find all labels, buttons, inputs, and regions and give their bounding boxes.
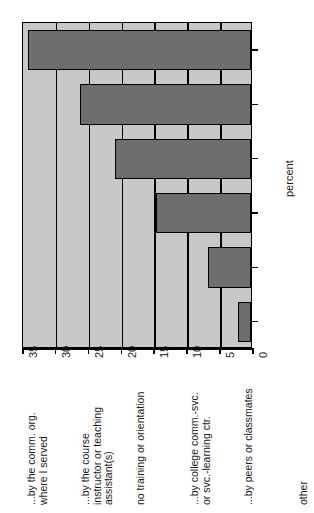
value-tick-0: [252, 348, 254, 354]
value-tick-label-25: 25: [93, 346, 105, 358]
bar-slot: [21, 139, 251, 179]
gridline-10: [187, 23, 189, 347]
value-tick-label-0: 0: [257, 352, 269, 358]
bar[interactable]: [115, 139, 251, 179]
bar-slot: [21, 84, 251, 124]
bar[interactable]: [80, 84, 251, 124]
value-tick-20: [121, 348, 123, 354]
category-tick: [252, 158, 258, 160]
value-tick-label-5: 5: [224, 352, 236, 358]
category-label: ...by the courseinstructor or teachingas…: [80, 407, 115, 505]
gridline-25: [89, 23, 91, 347]
bar[interactable]: [238, 302, 251, 342]
category-label-line: other: [298, 481, 310, 505]
category-label: ...by college comm.-svc.or svc.-learning…: [189, 392, 212, 505]
category-label-line: ...by the comm. org.: [26, 412, 38, 505]
category-tick: [252, 104, 258, 106]
value-tick-10: [186, 348, 188, 354]
value-tick-5: [219, 348, 221, 354]
category-label: ...by the comm. org.where I served: [26, 412, 49, 505]
value-tick-30: [55, 348, 57, 354]
category-tick: [252, 267, 258, 269]
plot-area: [22, 22, 252, 348]
category-tick: [252, 321, 258, 323]
category-label-line: or svc.-learning ctr.: [201, 392, 213, 505]
bar-chart-figure: 05101520253035 percent ...by the comm. o…: [0, 0, 314, 513]
gridline-5: [220, 23, 222, 347]
bar[interactable]: [208, 247, 251, 287]
value-tick-label-30: 30: [60, 346, 72, 358]
value-tick-15: [153, 348, 155, 354]
category-label: other: [298, 481, 310, 505]
value-tick-25: [88, 348, 90, 354]
value-tick-label-20: 20: [126, 346, 138, 358]
value-tick-label-35: 35: [27, 346, 39, 358]
category-label-line: assistant(s): [103, 407, 115, 505]
bar-slot: [21, 247, 251, 287]
value-axis: 05101520253035: [22, 348, 252, 354]
value-tick-35: [22, 348, 24, 354]
bar-slot: [21, 193, 251, 233]
bar[interactable]: [28, 30, 251, 70]
category-label-line: where I served: [38, 412, 50, 505]
value-tick-label-10: 10: [191, 346, 203, 358]
value-tick-label-15: 15: [158, 346, 170, 358]
category-label: no training or orientation: [135, 392, 147, 505]
category-label-line: no training or orientation: [135, 392, 147, 505]
gridline-15: [154, 23, 156, 347]
bar-slot: [21, 302, 251, 342]
bar-slot: [21, 30, 251, 70]
category-tick: [252, 49, 258, 51]
gridline-30: [56, 23, 58, 347]
bar[interactable]: [156, 193, 251, 233]
category-label-line: ...by peers or classmates: [243, 388, 255, 505]
category-tick: [252, 212, 258, 214]
category-label-line: ...by college comm.-svc.: [189, 392, 201, 505]
category-label: ...by peers or classmates: [243, 388, 255, 505]
gridline-20: [122, 23, 124, 347]
value-axis-title: percent: [283, 160, 295, 197]
